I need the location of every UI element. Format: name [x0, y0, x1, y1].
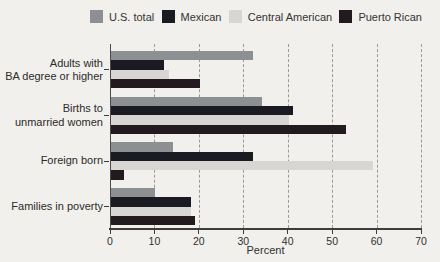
bar-mexican	[111, 106, 293, 115]
bar-u-s-total	[111, 97, 262, 106]
legend-label: Central American	[248, 11, 332, 23]
bar-central-american	[111, 161, 373, 170]
x-tick-70	[421, 230, 422, 234]
gridline-40	[288, 44, 289, 228]
category-tick	[104, 206, 109, 207]
gridline-70	[421, 44, 422, 228]
gridline-30	[243, 44, 244, 228]
x-tick-50	[332, 230, 333, 234]
x-tick-30	[243, 230, 244, 234]
legend-label: Mexican	[181, 11, 222, 23]
legend-item: Mexican	[162, 10, 222, 23]
x-tick-20	[198, 230, 199, 234]
gridline-50	[332, 44, 333, 228]
legend-swatch-icon	[339, 10, 352, 23]
x-tick-10	[154, 230, 155, 234]
legend-item: U.S. total	[90, 10, 154, 23]
x-axis-title: Percent	[110, 244, 421, 256]
bar-chart-figure: Selected characteristics of the Hispanic…	[0, 0, 440, 262]
category-label: Families in poverty	[0, 200, 103, 214]
legend: U.S. totalMexicanCentral AmericanPuerto …	[90, 10, 422, 23]
x-axis-line	[109, 228, 422, 230]
category-label: Foreign born	[0, 154, 103, 168]
category-tick	[104, 161, 109, 162]
bar-u-s-total	[111, 188, 155, 197]
bar-central-american	[111, 115, 289, 124]
legend-swatch-icon	[162, 10, 175, 23]
legend-item: Puerto Rican	[339, 10, 422, 23]
bar-u-s-total	[111, 142, 173, 151]
category-label: Adults with BA degree or higher	[0, 56, 103, 83]
category-label: Births to unmarried women	[0, 102, 103, 129]
legend-swatch-icon	[90, 10, 103, 23]
bar-puerto-rican	[111, 125, 346, 134]
bar-puerto-rican	[111, 170, 124, 179]
legend-label: U.S. total	[109, 11, 154, 23]
figure-title-cropped: Selected characteristics of the Hispanic…	[0, 0, 440, 5]
x-tick-60	[376, 230, 377, 234]
category-tick	[104, 69, 109, 70]
gridline-60	[377, 44, 378, 228]
figure-title-text: Selected characteristics of the Hispanic…	[59, 4, 381, 5]
bar-puerto-rican	[111, 216, 195, 225]
category-tick	[104, 115, 109, 116]
bar-central-american	[111, 70, 169, 79]
bar-mexican	[111, 197, 191, 206]
plot-area: 010203040506070	[110, 44, 421, 228]
bar-u-s-total	[111, 51, 253, 60]
bar-mexican	[111, 152, 253, 161]
legend-label: Puerto Rican	[358, 11, 422, 23]
legend-item: Central American	[229, 10, 332, 23]
x-tick-40	[287, 230, 288, 234]
bar-central-american	[111, 207, 191, 216]
bar-puerto-rican	[111, 79, 200, 88]
gridline-20	[199, 44, 200, 228]
legend-swatch-icon	[229, 10, 242, 23]
bar-mexican	[111, 60, 164, 69]
x-tick-0	[110, 230, 111, 234]
